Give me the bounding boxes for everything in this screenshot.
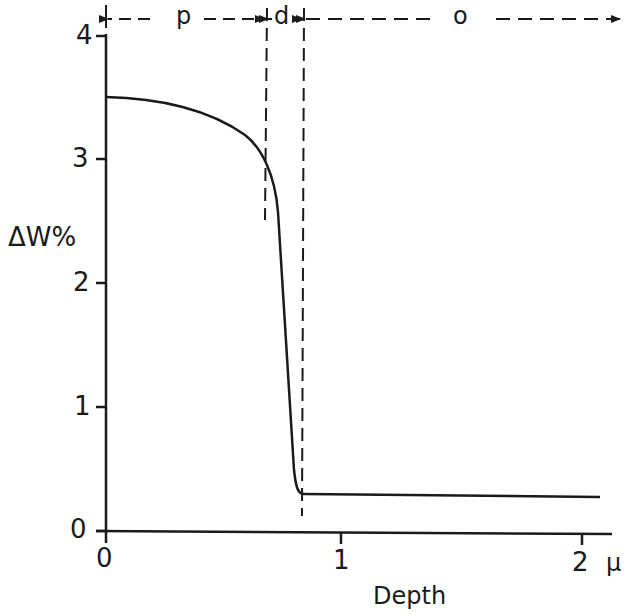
x-tick-label-0: 0: [96, 543, 113, 573]
data-curve: [106, 97, 600, 497]
x-tick-label-1: 1: [333, 545, 350, 575]
y-axis-title: ΔW%: [8, 222, 76, 252]
region-label-o: o: [449, 2, 472, 30]
y-tick-label-4: 4: [76, 20, 93, 50]
x-axis: [96, 531, 612, 534]
x-tick-label-2: 2: [572, 547, 589, 577]
y-tick-label-0: 0: [70, 514, 87, 544]
y-ticks: [96, 36, 106, 531]
x-unit-label: μ: [606, 549, 621, 577]
y-tick-label-3: 3: [72, 143, 89, 173]
boundary-d-o: [302, 8, 304, 516]
boundary-p-d: [265, 8, 267, 220]
chart-plot: [0, 0, 631, 615]
y-tick-label-2: 2: [73, 267, 90, 297]
x-axis-title: Depth: [373, 582, 446, 610]
chart-container: p d o 4 3 2 1 0 ΔW% 0 1 2 μ Depth: [0, 0, 631, 615]
region-label-d: d: [272, 2, 291, 30]
region-label-p: p: [172, 2, 195, 30]
y-tick-label-1: 1: [74, 391, 91, 421]
